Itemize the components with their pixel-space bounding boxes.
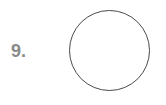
circle-shape: [69, 10, 150, 91]
item-number: 9.: [11, 41, 26, 61]
